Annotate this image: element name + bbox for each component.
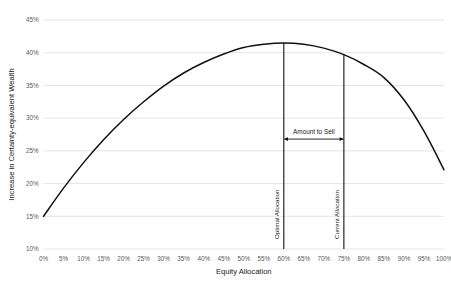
certainty-equivalent-wealth-chart: 10%15%20%25%30%35%40%45% 0%5%10%15%20%25… [0, 0, 451, 284]
x-tick-20: 20% [117, 255, 130, 262]
x-tick-95: 95% [418, 255, 431, 262]
y-tick-40: 40% [26, 49, 39, 56]
x-tick-100: 100% [436, 255, 451, 262]
chart-container: 10%15%20%25%30%35%40%45% 0%5%10%15%20%25… [0, 0, 451, 284]
x-tick-75: 75% [338, 255, 351, 262]
x-tick-15: 15% [97, 255, 110, 262]
x-tick-40: 40% [197, 255, 210, 262]
x-tick-45: 45% [217, 255, 230, 262]
x-axis-tick-labels: 0%5%10%15%20%25%30%35%40%45%50%55%60%65%… [39, 255, 451, 262]
x-tick-0: 0% [39, 255, 49, 262]
amount-to-sell-label: Amount to Sell [293, 128, 335, 135]
y-tick-10: 10% [26, 245, 39, 252]
chart-background [0, 0, 451, 284]
x-tick-70: 70% [318, 255, 331, 262]
x-tick-90: 90% [398, 255, 411, 262]
y-tick-30: 30% [26, 114, 39, 121]
y-axis-title: Increase in Certainty-equivalent Wealth [7, 68, 16, 200]
y-tick-35: 35% [26, 82, 39, 89]
x-tick-55: 55% [257, 255, 270, 262]
x-tick-30: 30% [157, 255, 170, 262]
y-tick-25: 25% [26, 147, 39, 154]
x-tick-85: 85% [378, 255, 391, 262]
x-tick-5: 5% [59, 255, 69, 262]
y-tick-15: 15% [26, 213, 39, 220]
current-allocation-label: Current Allocation [333, 190, 340, 239]
x-tick-65: 65% [298, 255, 311, 262]
x-tick-35: 35% [177, 255, 190, 262]
x-tick-50: 50% [237, 255, 250, 262]
optimal-allocation-label: Optimal Allocation [273, 189, 280, 239]
x-tick-80: 80% [358, 255, 371, 262]
y-tick-20: 20% [26, 180, 39, 187]
x-tick-25: 25% [137, 255, 150, 262]
x-tick-60: 60% [277, 255, 290, 262]
x-axis-title: Equity Allocation [216, 267, 272, 276]
y-tick-45: 45% [26, 16, 39, 23]
x-tick-10: 10% [77, 255, 90, 262]
